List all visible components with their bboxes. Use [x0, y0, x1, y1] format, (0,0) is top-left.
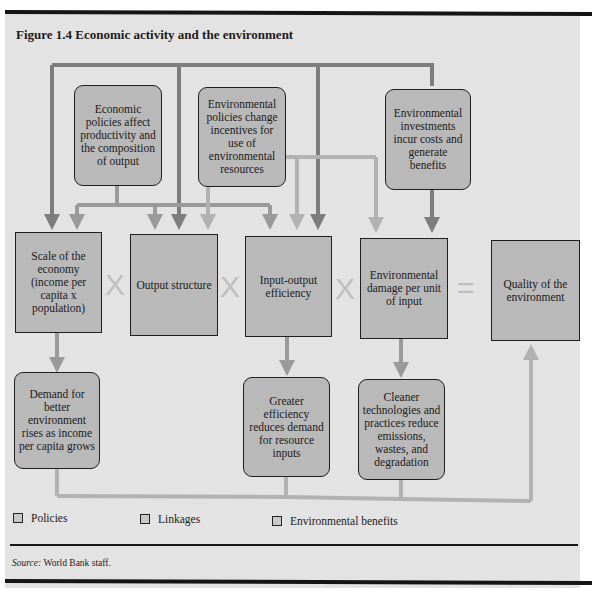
factor-text: Quality of the environment [495, 278, 576, 304]
factor-box-efficiency: Input-output efficiency [245, 236, 332, 337]
equals-operator: = [457, 271, 475, 305]
policy-text: Economic policies affect productivity an… [78, 103, 158, 168]
factor-text: Input-output efficiency [249, 274, 328, 300]
legend-label: Environmental benefits [290, 515, 398, 527]
legend-square-icon [13, 513, 23, 523]
source-note: Source: World Bank staff. [12, 558, 111, 568]
benefit-box-cleaner-tech: Cleaner technologies and practices reduc… [358, 379, 445, 480]
factor-to-benefit-arrows [57, 333, 401, 370]
legend-environmental-benefits: Environmental benefits [272, 515, 398, 527]
benefit-text: Greater efficiency reduces demand for re… [247, 395, 326, 460]
legend-label: Policies [31, 512, 67, 524]
multiply-operator: X [335, 272, 355, 306]
source-text: World Bank staff. [43, 558, 110, 568]
multiply-operator: X [220, 270, 240, 304]
benefit-box-efficiency: Greater efficiency reduces demand for re… [243, 377, 330, 477]
benefit-box-demand: Demand for better environment rises as i… [14, 372, 100, 469]
legend-label: Linkages [158, 513, 200, 525]
policy-text: Environmental policies change incentives… [202, 98, 282, 176]
legend-linkages: Linkages [140, 513, 200, 525]
factor-text: Output structure [136, 279, 211, 292]
source-label: Source: [12, 558, 41, 568]
factor-box-output-structure: Output structure [130, 234, 218, 336]
factor-text: Scale of the economy (income per capita … [19, 250, 98, 315]
factor-box-damage: Environmental damage per unit of input [360, 238, 448, 339]
legend-square-icon [272, 516, 282, 526]
factor-box-quality: Quality of the environment [491, 240, 580, 341]
legend-policies: Policies [13, 512, 67, 524]
legend-divider [10, 544, 578, 546]
benefit-text: Cleaner technologies and practices reduc… [362, 391, 441, 469]
policy-box-economic: Economic policies affect productivity an… [74, 85, 162, 186]
legend-square-icon [140, 514, 150, 524]
factor-box-scale: Scale of the economy (income per capita … [15, 232, 102, 333]
multiply-operator: X [105, 268, 125, 302]
policy-box-investments: Environmental investments incur costs an… [385, 89, 471, 190]
economic-policy-bus [77, 185, 270, 222]
factor-text: Environmental damage per unit of input [364, 269, 444, 308]
policy-text: Environmental investments incur costs an… [389, 107, 467, 172]
benefit-text: Demand for better environment rises as i… [18, 388, 96, 453]
policy-box-environmental: Environmental policies change incentives… [198, 87, 286, 187]
